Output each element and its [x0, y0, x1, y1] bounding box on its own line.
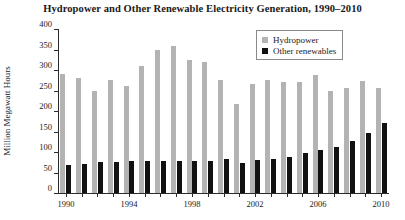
bar-other-renewables: [161, 161, 166, 193]
x-axis-tick: [113, 193, 114, 197]
legend-item-other-renewables: Other renewables: [262, 45, 336, 56]
bar-hydropower: [171, 46, 176, 193]
y-axis-tick: [54, 91, 58, 92]
x-axis-tick: [208, 193, 209, 197]
bar-group: [76, 29, 87, 193]
bar-group: [376, 29, 387, 193]
x-axis-tick: [160, 193, 161, 197]
bar-group: [139, 29, 150, 193]
bar-other-renewables: [177, 161, 182, 193]
chart-title: Hydropower and Other Renewable Electrici…: [0, 3, 405, 14]
bar-other-renewables: [271, 159, 276, 193]
x-axis-tick: [287, 193, 288, 197]
bar-hydropower: [328, 91, 333, 193]
y-axis-tick: [54, 111, 58, 112]
bar-other-renewables: [208, 161, 213, 193]
bar-hydropower: [250, 84, 255, 193]
x-axis-tick: [97, 193, 98, 197]
x-axis-tick: [334, 193, 335, 197]
y-axis-tick: [54, 29, 58, 30]
x-axis-tick: [66, 193, 67, 197]
bar-group: [92, 29, 103, 193]
y-axis-tick-label: 250: [39, 86, 52, 87]
x-axis-tick-label: 2006: [310, 199, 327, 209]
bar-other-renewables: [98, 162, 103, 193]
bar-other-renewables: [66, 165, 71, 193]
y-axis-tick-label: 150: [39, 127, 52, 128]
bar-other-renewables: [382, 123, 387, 193]
y-axis-tick: [54, 70, 58, 71]
x-axis-tick: [381, 193, 382, 197]
bar-hydropower: [92, 91, 97, 193]
x-axis-tick: [350, 193, 351, 197]
bar-hydropower: [124, 86, 129, 193]
bar-other-renewables: [192, 161, 197, 193]
bar-group: [60, 29, 71, 193]
legend-swatch-other-renewables: [262, 48, 268, 54]
bar-hydropower: [139, 66, 144, 194]
y-axis-title: Million Megawatt Hours: [2, 29, 14, 193]
x-axis-tick: [271, 193, 272, 197]
bar-other-renewables: [129, 161, 134, 193]
y-axis-tick-label: 0: [48, 188, 52, 189]
bar-hydropower: [218, 80, 223, 193]
y-axis-tick-label: 50: [44, 168, 53, 169]
y-axis-tick-label: 200: [39, 106, 52, 107]
bar-group: [360, 29, 371, 193]
bar-other-renewables: [303, 153, 308, 193]
bar-other-renewables: [318, 150, 323, 193]
y-axis-tick: [54, 193, 58, 194]
bar-other-renewables: [224, 159, 229, 193]
x-axis-tick: [176, 193, 177, 197]
bar-hydropower: [155, 50, 160, 194]
x-axis-tick: [145, 193, 146, 197]
x-axis-tick-label: 2002: [247, 199, 264, 209]
chart-container: Hydropower and Other Renewable Electrici…: [0, 0, 405, 220]
legend-item-hydropower: Hydropower: [262, 34, 336, 45]
bar-hydropower: [108, 80, 113, 193]
y-axis-tick: [54, 173, 58, 174]
y-axis-tick: [54, 152, 58, 153]
bar-other-renewables: [240, 163, 245, 193]
y-axis-tick: [54, 132, 58, 133]
x-axis-tick: [318, 193, 319, 197]
bar-hydropower: [187, 60, 192, 193]
bar-hydropower: [281, 82, 286, 193]
bar-hydropower: [297, 82, 302, 193]
x-axis-tick: [82, 193, 83, 197]
x-axis-tick: [192, 193, 193, 197]
bar-other-renewables: [82, 164, 87, 193]
bar-hydropower: [265, 80, 270, 193]
bar-group: [202, 29, 213, 193]
legend-label-hydropower: Hydropower: [273, 35, 319, 45]
bar-hydropower: [60, 74, 65, 193]
bar-group: [124, 29, 135, 193]
x-axis-tick-label: 2010: [373, 199, 390, 209]
x-axis-tick-label: 1998: [183, 199, 200, 209]
x-axis-tick: [239, 193, 240, 197]
bar-other-renewables: [255, 160, 260, 193]
y-axis-tick-label: 350: [39, 45, 52, 46]
bar-other-renewables: [287, 157, 292, 193]
legend-label-other-renewables: Other renewables: [273, 46, 336, 56]
bar-other-renewables: [366, 133, 371, 193]
bar-group: [344, 29, 355, 193]
bar-hydropower: [234, 104, 239, 193]
bar-group: [155, 29, 166, 193]
chart-legend: Hydropower Other renewables: [256, 30, 343, 60]
bar-other-renewables: [145, 161, 150, 193]
bar-group: [218, 29, 229, 193]
bar-group: [108, 29, 119, 193]
y-axis-tick-label: 300: [39, 65, 52, 66]
bar-group: [171, 29, 182, 193]
y-axis-tick-label: 100: [39, 147, 52, 148]
x-axis-tick-label: 1990: [57, 199, 74, 209]
bar-group: [187, 29, 198, 193]
x-axis-tick-label: 1994: [120, 199, 137, 209]
bar-hydropower: [202, 62, 207, 193]
bar-hydropower: [313, 75, 318, 193]
bar-hydropower: [344, 88, 349, 193]
x-axis-tick: [129, 193, 130, 197]
y-axis-tick: [54, 50, 58, 51]
x-axis-tick: [255, 193, 256, 197]
